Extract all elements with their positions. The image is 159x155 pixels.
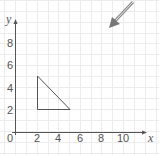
origin-label: 0 [7,132,13,144]
y-tick-label: 4 [7,82,13,94]
y-axis-arrowhead-icon [14,19,18,24]
x-tick-label: 2 [34,132,40,144]
y-tick-label: 6 [7,59,13,71]
x-tick-label: 6 [77,132,83,144]
x-tick-label: 10 [117,132,129,144]
triangle-shape [38,76,71,110]
y-tick-label: 2 [7,104,13,116]
coordinate-plane: x y 0 2 4 6 8 10 2 4 6 8 [0,0,159,155]
x-tick-label: 8 [98,132,104,144]
x-tick-label: 4 [55,132,61,144]
y-axis-label: y [5,12,12,26]
x-axis-label: x [147,131,154,145]
y-tick-label: 8 [7,37,13,49]
